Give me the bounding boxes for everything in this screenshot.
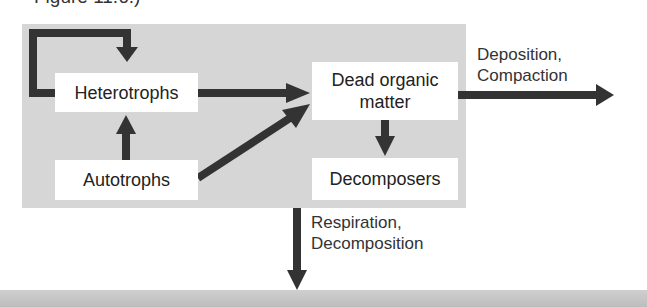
deposition-label: Deposition, Compaction bbox=[477, 44, 568, 86]
page-edge-band bbox=[0, 290, 647, 307]
decomposers-node: Decomposers bbox=[312, 158, 458, 200]
respiration-label: Respiration, Decomposition bbox=[311, 212, 423, 254]
autotrophs-label: Autotrophs bbox=[83, 169, 170, 191]
respiration-arrowhead-icon bbox=[287, 270, 307, 290]
deposition-arrowhead-icon bbox=[596, 84, 614, 106]
hetero-to-dead-arrowhead-icon bbox=[286, 83, 310, 103]
respiration-line-1: Respiration, bbox=[311, 212, 423, 233]
dead-to-decomp-arrowhead-icon bbox=[375, 136, 395, 156]
dead-organic-matter-label: Dead organic matter bbox=[322, 69, 448, 113]
autotrophs-node: Autotrophs bbox=[55, 160, 198, 200]
heterotrophs-node: Heterotrophs bbox=[55, 73, 198, 112]
deposition-line-1: Deposition, bbox=[477, 44, 568, 65]
auto-to-hetero-arrowhead-icon bbox=[116, 115, 136, 134]
decomposers-label: Decomposers bbox=[329, 168, 440, 190]
auto-to-dead-line bbox=[198, 118, 290, 178]
respiration-line-2: Decomposition bbox=[311, 233, 423, 254]
deposition-line-2: Compaction bbox=[477, 65, 568, 86]
loop-arrowhead-icon bbox=[116, 47, 138, 62]
self-loop-arrow bbox=[30, 34, 134, 58]
heterotrophs-label: Heterotrophs bbox=[74, 82, 178, 104]
dead-organic-matter-node: Dead organic matter bbox=[312, 62, 458, 120]
